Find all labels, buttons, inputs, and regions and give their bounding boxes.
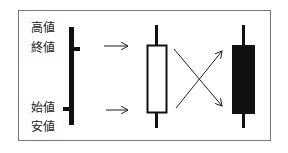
close-tick [74,47,80,51]
candlestick-diagram [0,0,288,153]
open-tick [63,107,69,111]
arrow-down-right-icon [174,49,222,106]
bullish-candle [148,25,167,128]
ohlc-bar [63,27,80,125]
bearish-candle [232,25,255,128]
